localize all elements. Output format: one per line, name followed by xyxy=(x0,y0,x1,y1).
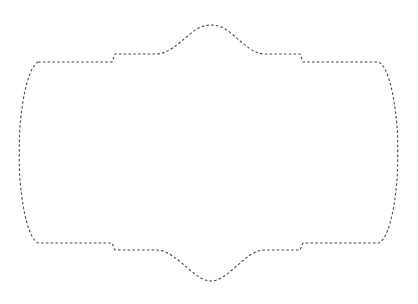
ornamental-frame-svg xyxy=(0,0,418,304)
canvas-background xyxy=(0,0,418,304)
drawing-canvas xyxy=(0,0,418,304)
